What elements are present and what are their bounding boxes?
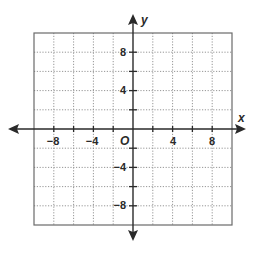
y-tick-label-neg4: −4	[113, 161, 126, 173]
x-axis-name: x	[237, 111, 246, 125]
axis-labels: x y O −8 −4 4 8 8 4 −4 −8	[47, 13, 246, 211]
y-tick-label-neg8: −8	[113, 199, 126, 211]
x-tick-label-neg8: −8	[47, 135, 60, 147]
y-axis-name: y	[140, 13, 149, 27]
coordinate-plane: x y O −8 −4 4 8 8 4 −4 −8	[0, 0, 257, 255]
x-tick-label-neg4: −4	[86, 135, 99, 147]
origin-label: O	[120, 134, 130, 148]
x-tick-label-8: 8	[209, 135, 215, 147]
axes	[8, 14, 246, 241]
y-tick-label-4: 4	[120, 84, 127, 96]
y-tick-label-8: 8	[120, 46, 126, 58]
x-tick-label-4: 4	[170, 135, 177, 147]
